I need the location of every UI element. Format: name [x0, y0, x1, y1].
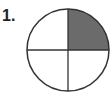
- fraction-circle: [0, 0, 111, 100]
